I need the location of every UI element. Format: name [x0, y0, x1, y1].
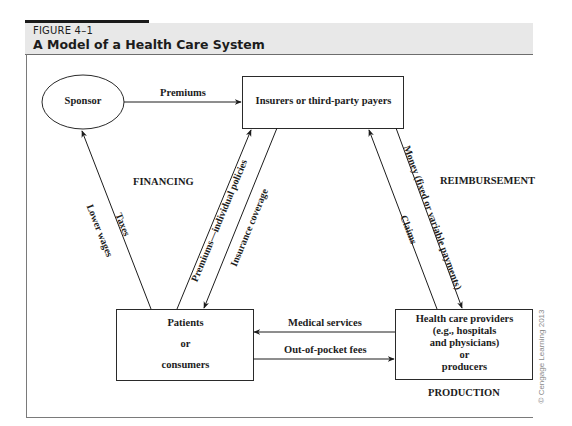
providers-label-line1: Health care providers [396, 313, 533, 325]
financing-region-label: FINANCING [133, 176, 194, 187]
providers-node: Health care providers (e.g., hospitals a… [396, 313, 533, 373]
patients-label-line3: consumers [117, 359, 254, 370]
production-region-label: PRODUCTION [428, 387, 500, 398]
providers-label-line5: producers [396, 361, 533, 373]
out-of-pocket-label: Out-of-pocket fees [284, 344, 367, 355]
premiums-label: Premiums [160, 87, 206, 98]
reimbursement-region-label: REIMBURSEMENT [440, 175, 535, 186]
copyright-credit: © Cengage Learning 2013 [537, 305, 546, 409]
patients-label-line1: Patients [117, 317, 254, 328]
providers-label-line2: (e.g., hospitals [396, 325, 533, 337]
providers-label-line4: or [396, 349, 533, 361]
insurers-label: Insurers or third-party payers [243, 95, 404, 106]
patients-label-line2: or [117, 338, 254, 349]
medical-services-label: Medical services [288, 317, 362, 328]
sponsor-label: Sponsor [42, 95, 124, 106]
providers-label-line3: and physicians) [396, 337, 533, 349]
